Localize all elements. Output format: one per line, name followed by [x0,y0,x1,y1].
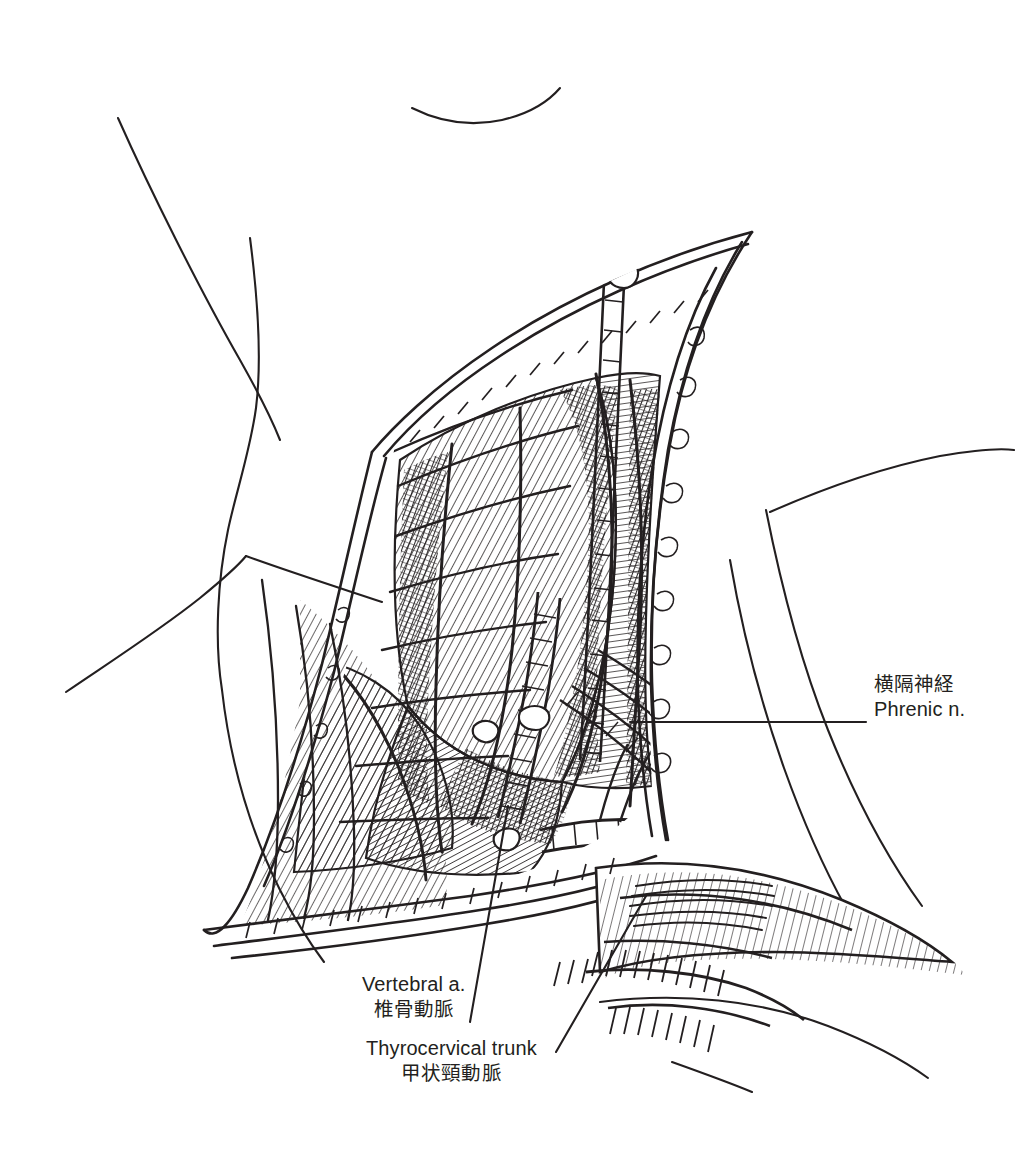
second-flap-comb [610,1007,714,1052]
lower-right-flap [554,850,980,1020]
label-phrenic-en: Phrenic n. [874,697,965,722]
label-phrenic-ja: 横隔神経 [874,672,965,697]
right-skin-flap-inner [651,242,742,840]
lower-second-flap [608,1005,770,1052]
illustration-canvas [0,0,1031,1156]
label-thyrocervical-en: Thyrocervical trunk [366,1036,537,1061]
left-shoulder-upper [246,556,382,602]
lower-right-contour [672,1062,752,1092]
chest-fold-contour [600,998,928,1078]
label-thyrocervical-ja: 甲状頸動脈 [366,1061,537,1086]
label-vertebral-ja: 椎骨動脈 [362,997,466,1022]
jaw-contour [412,88,560,123]
flap-lower-edge [586,970,804,1020]
anatomy-figure: 横隔神経 Phrenic n. Vertebral a. 椎骨動脈 Thyroc… [0,0,1031,1156]
label-thyrocervical-trunk: Thyrocervical trunk 甲状頸動脈 [366,1036,537,1086]
second-flap-edge [608,1005,770,1026]
left-neck-contour-2 [218,238,259,690]
label-vertebral-en: Vertebral a. [362,972,466,997]
flap-fibre-comb-2 [554,959,588,986]
right-shoulder-upper [770,449,1014,512]
label-vertebral-artery: Vertebral a. 椎骨動脈 [362,972,466,1022]
label-phrenic-nerve: 横隔神経 Phrenic n. [874,672,965,722]
